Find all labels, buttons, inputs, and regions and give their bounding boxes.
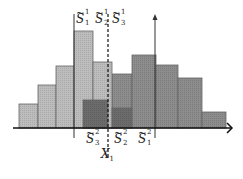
histogram-diagram: ~S11~S12~S13 ~S23~S22~S21 X1 (0, 0, 243, 179)
histogram-2-bar (156, 65, 178, 128)
label-s-tilde-top-3: ~S13 (112, 13, 120, 25)
overlap-bar (83, 100, 108, 128)
histogram-2-bar (178, 78, 202, 128)
label-s-tilde-bottom-1: ~S23 (86, 133, 94, 145)
label-s-tilde-top-1: ~S11 (76, 13, 84, 25)
label-s-tilde-bottom-2: ~S22 (114, 133, 122, 145)
arrow-up-icon (153, 14, 158, 20)
histogram-1-bar (56, 66, 74, 128)
histogram-1-bar (38, 85, 56, 128)
label-s-tilde-top-2: ~S12 (95, 13, 103, 25)
threshold-label-x1: X1 (101, 148, 114, 163)
histogram-2-bar (132, 55, 156, 128)
label-s-tilde-bottom-3: ~S21 (138, 133, 146, 145)
overlap-bar (112, 108, 132, 128)
histogram-2-bar (202, 112, 226, 128)
histogram-1-bar (19, 104, 38, 128)
